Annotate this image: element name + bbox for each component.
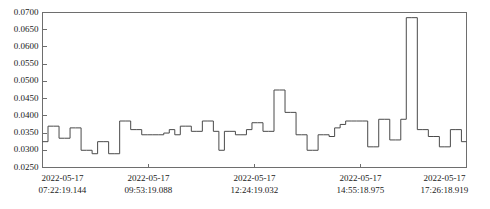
x-axis-tick-labels: 2022-05-1707:22:19.1442022-05-1709:53:19…: [39, 173, 469, 195]
y-tick-label: 0.0350: [14, 127, 39, 137]
chart-screenshot: 0.07000.06500.06000.05500.05000.04500.04…: [0, 0, 490, 209]
x-tick-label-date: 2022-05-17: [128, 173, 170, 183]
y-tick-label: 0.0300: [14, 144, 39, 154]
x-axis-ticks: [43, 164, 467, 168]
x-tick-label-time: 07:22:19.144: [39, 185, 87, 195]
y-tick-label: 0.0500: [14, 75, 39, 85]
x-tick-label-date: 2022-05-17: [340, 173, 382, 183]
series-line: [43, 18, 467, 154]
y-tick-label: 0.0400: [14, 110, 39, 120]
y-tick-label: 0.0250: [14, 162, 39, 172]
y-tick-label: 0.0550: [14, 58, 39, 68]
x-tick-label-time: 17:26:18.919: [421, 185, 469, 195]
x-tick-label-date: 2022-05-17: [42, 173, 84, 183]
plot-frame: [43, 13, 467, 168]
y-tick-label: 0.0600: [14, 41, 39, 51]
x-tick-label-time: 14:55:18.975: [337, 185, 385, 195]
y-tick-label: 0.0450: [14, 93, 39, 103]
series-group: [43, 18, 467, 154]
x-tick-label-time: 09:53:19.088: [125, 185, 173, 195]
y-tick-label: 0.0700: [14, 7, 39, 17]
y-tick-label: 0.0650: [14, 24, 39, 34]
y-axis-ticks: [43, 13, 47, 168]
x-tick-label-date: 2022-05-17: [234, 173, 276, 183]
x-tick-label-time: 12:24:19.032: [231, 185, 279, 195]
x-tick-label-date: 2022-05-17: [424, 173, 466, 183]
time-series-chart: 0.07000.06500.06000.05500.05000.04500.04…: [0, 0, 490, 209]
y-axis-tick-labels: 0.07000.06500.06000.05500.05000.04500.04…: [14, 7, 39, 172]
